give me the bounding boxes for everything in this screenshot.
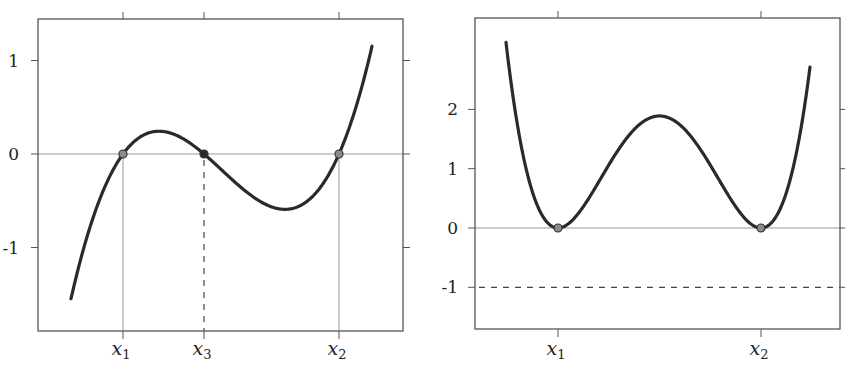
left-y-tick-labels: 10-1: [2, 51, 19, 258]
cubic-curve: [71, 46, 372, 298]
x-tick-label-x1: x1: [547, 337, 566, 362]
point-x1: [119, 150, 127, 158]
right-plot-frame: [475, 18, 840, 329]
quartic-plot: 210-1 x1x2: [441, 11, 845, 362]
x-tick-label-x2: x2: [750, 337, 769, 362]
left-plot-frame: [38, 19, 403, 331]
y-tick-label: 1: [447, 159, 458, 179]
quartic-curve: [506, 42, 810, 228]
y-tick-label: 0: [8, 144, 19, 164]
point-x2: [757, 224, 765, 232]
x-tick-label-x2: x2: [328, 337, 347, 362]
cubic-plot: 10-1 x1x3x2: [2, 12, 410, 362]
left-x-tick-labels: x1x3x2: [112, 337, 347, 362]
y-tick-label: -1: [2, 238, 19, 258]
left-ticks: [31, 12, 410, 339]
point-x1: [554, 224, 562, 232]
point-x3: [200, 150, 208, 158]
point-x2: [335, 150, 343, 158]
y-tick-label: -1: [441, 277, 458, 297]
y-tick-label: 1: [8, 51, 19, 71]
right-x-tick-labels: x1x2: [547, 337, 769, 362]
y-tick-label: 0: [447, 218, 458, 238]
figure: 10-1 x1x3x2 210-1 x1x2: [0, 0, 845, 375]
x-tick-label-x1: x1: [112, 337, 131, 362]
right-y-tick-labels: 210-1: [441, 99, 458, 297]
y-tick-label: 2: [447, 99, 458, 119]
x-tick-label-x3: x3: [193, 337, 212, 362]
right-ticks: [468, 11, 845, 337]
